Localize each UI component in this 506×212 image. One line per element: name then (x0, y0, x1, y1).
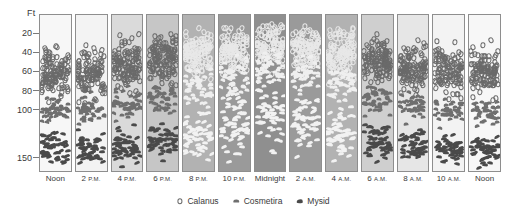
mysid-marker (264, 134, 270, 138)
y-axis-tick-label: 40 (22, 47, 32, 57)
mysid-marker (148, 148, 155, 153)
organism-layer (362, 15, 393, 171)
mysid-marker (280, 95, 286, 99)
cosmetira-marker (292, 72, 297, 76)
cosmetira-marker (78, 111, 83, 114)
organism-layer (290, 15, 321, 171)
x-axis-tick-label: 6 A.M. (361, 174, 394, 188)
organism-layer (326, 15, 357, 171)
x-axis-tick-label: 4 P.M. (111, 174, 144, 188)
y-axis-tick-label: 80 (22, 86, 32, 96)
mysid-marker (385, 141, 391, 144)
mysid-marker (382, 155, 389, 160)
y-axis-tick-label: 150 (17, 153, 32, 163)
x-axis-time: 4 (117, 174, 121, 183)
time-column (289, 14, 322, 172)
mysid-marker (201, 119, 208, 124)
mysid-marker (84, 137, 90, 141)
mysid-marker (494, 134, 501, 140)
mysid-marker (80, 157, 86, 161)
cosmetira-marker (315, 70, 321, 74)
mysid-marker (450, 133, 457, 138)
calanus-marker (468, 52, 474, 59)
calanus-marker (314, 32, 320, 38)
cosmetira-marker (447, 117, 453, 121)
chart-legend: CalanusCosmetiraMysid (0, 194, 506, 208)
cosmetira-marker (111, 111, 117, 116)
cosmetira-marker (147, 91, 152, 95)
cosmetira-marker (450, 100, 455, 103)
cosmetira-marker (203, 75, 208, 79)
calanus-marker (370, 51, 376, 57)
calanus-marker (443, 88, 450, 95)
cosmetira-marker (387, 99, 393, 103)
cosmetira-marker (208, 67, 213, 70)
time-column (468, 14, 501, 172)
cosmetira-marker (168, 92, 173, 96)
cosmetira-marker (417, 113, 422, 116)
calanus-marker (117, 55, 123, 61)
mysid-marker (276, 127, 282, 131)
mysid-marker (100, 132, 107, 136)
calanus-marker (51, 77, 57, 84)
cosmetira-marker (474, 124, 480, 128)
mysid-marker (55, 151, 61, 154)
x-axis-period: A.M. (448, 176, 461, 182)
x-axis-tick-label: Midnight (254, 174, 287, 188)
x-axis-time: Noon (46, 174, 65, 183)
cosmetira-marker (165, 96, 170, 100)
cosmetira-marker (399, 92, 405, 97)
x-axis-tick-label: 8 A.M. (397, 174, 430, 188)
cosmetira-marker (495, 105, 500, 108)
cosmetira-marker (403, 122, 408, 126)
mysid-marker (197, 132, 204, 136)
mysid-marker (400, 155, 406, 159)
x-axis-tick-label: 4 A.M. (325, 174, 358, 188)
x-axis-period: A.M. (410, 176, 423, 182)
cosmetira-marker (88, 89, 94, 94)
cosmetira-marker (261, 84, 266, 87)
mysid-marker (436, 155, 442, 159)
calanus-marker (440, 53, 445, 59)
x-axis-time: 2 (82, 174, 86, 183)
x-axis-time: 10 (437, 174, 446, 183)
calanus-marker (66, 54, 72, 60)
cosmetira-marker (125, 115, 130, 118)
cosmetira-marker (367, 107, 373, 112)
calanus-marker (116, 32, 122, 39)
cosmetira-marker (159, 75, 164, 79)
mysid-marker (257, 131, 264, 136)
mysid-marker (348, 106, 354, 109)
calanus-marker (405, 46, 410, 52)
cosmetira-marker (39, 119, 45, 123)
mysid-marker (202, 112, 208, 116)
mysid-marker (361, 130, 367, 134)
cosmetira-marker (316, 84, 321, 88)
time-column (218, 14, 251, 172)
calanus-marker (76, 99, 82, 105)
organism-layer (469, 15, 500, 171)
organism-layer (433, 15, 464, 171)
calanus-marker (135, 30, 142, 37)
cosmetira-marker (331, 95, 337, 99)
cosmetira-marker (376, 98, 381, 101)
calanus-marker (173, 41, 178, 47)
cosmetira-marker (490, 122, 495, 125)
cosmetira-marker (183, 75, 188, 79)
organism-layer (112, 15, 143, 171)
mysid-marker (327, 110, 334, 115)
mysid-marker (225, 160, 231, 164)
calanus-marker (92, 60, 98, 66)
cosmetira-marker (206, 105, 211, 109)
x-axis-period: P.M. (124, 176, 136, 182)
legend-label: Calanus (187, 196, 218, 206)
calanus-marker (454, 91, 459, 97)
time-column (254, 14, 287, 172)
calanus-marker (193, 41, 199, 47)
calanus-marker (433, 85, 439, 92)
time-column (146, 14, 179, 172)
cosmetira-marker (265, 75, 271, 79)
calanus-marker (372, 61, 377, 67)
x-axis-tick-label: 6 P.M. (146, 174, 179, 188)
mysid-marker (278, 131, 285, 136)
